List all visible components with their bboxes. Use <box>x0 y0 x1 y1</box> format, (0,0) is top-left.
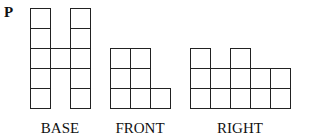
orthographic-views-diagram <box>0 0 310 136</box>
base-cell <box>71 9 91 29</box>
front-cell <box>131 49 151 69</box>
right-cell <box>251 89 271 109</box>
base-cell <box>71 89 91 109</box>
right-cell <box>191 49 211 69</box>
right-cell <box>211 69 231 89</box>
front-cell <box>111 69 131 89</box>
base-cell <box>31 29 51 49</box>
right-cell <box>271 89 291 109</box>
right-cell <box>231 89 251 109</box>
right-cell <box>191 69 211 89</box>
base-cell <box>71 69 91 89</box>
base-cell <box>31 89 51 109</box>
base-cell <box>31 49 51 69</box>
base-cell <box>31 69 51 89</box>
right-view-label: RIGHT <box>210 120 270 136</box>
front-cell <box>151 89 171 109</box>
base-cell <box>71 29 91 49</box>
base-cell <box>71 49 91 69</box>
right-cell <box>231 49 251 69</box>
right-cell <box>231 69 251 89</box>
front-cell <box>111 49 131 69</box>
right-cell <box>251 69 271 89</box>
base-view-label: BASE <box>30 120 90 136</box>
front-cell <box>111 89 131 109</box>
front-cell <box>131 89 151 109</box>
front-view-label: FRONT <box>110 120 170 136</box>
base-cell <box>51 49 71 69</box>
right-cell <box>191 89 211 109</box>
front-cell <box>131 69 151 89</box>
base-cell <box>31 9 51 29</box>
right-cell <box>211 89 231 109</box>
right-cell <box>271 69 291 89</box>
